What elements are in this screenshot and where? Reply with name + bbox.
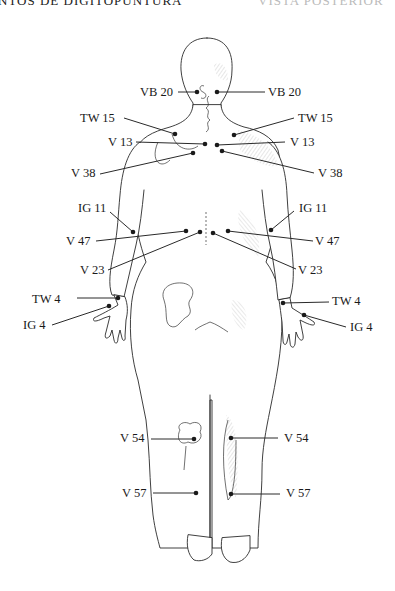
point-label-v13-right: V 13: [290, 135, 314, 149]
leader-line-ig11-left: [110, 212, 133, 232]
leader-line-tw15-right: [234, 118, 294, 135]
point-label-tw4-left: TW 4: [32, 292, 61, 306]
acupoint-ig4-left: [107, 304, 112, 309]
acupoint-v54-left: [192, 437, 197, 442]
acupoint-vb20-right: [215, 90, 220, 95]
leader-line-ig4-right: [304, 315, 346, 327]
point-label-tw4-right: TW 4: [332, 294, 361, 308]
acupoint-ig4-right: [302, 313, 307, 318]
acupoint-v47-left: [184, 229, 189, 234]
acupoint-tw4-right: [281, 301, 286, 306]
point-label-v47-right: V 47: [315, 234, 339, 248]
leader-line-ig11-right: [271, 211, 294, 230]
acupoint-v13-left: [203, 142, 208, 147]
acupoint-v57-right: [229, 492, 234, 497]
point-label-v38-right: V 38: [318, 166, 342, 180]
leader-line-v38-left: [100, 153, 193, 174]
acupoint-v54-right: [229, 436, 234, 441]
point-label-v57-left: V 57: [122, 486, 146, 500]
point-label-ig11-right: IG 11: [299, 201, 327, 215]
point-label-v13-left: V 13: [108, 135, 132, 149]
leader-line-v13-right: [217, 142, 285, 145]
acupoint-v47-right: [226, 229, 231, 234]
acupoint-ig11-left: [131, 230, 136, 235]
point-label-ig4-right: IG 4: [350, 320, 373, 334]
point-label-vb20-left: VB 20: [140, 85, 173, 99]
leader-line-v23-right: [213, 233, 296, 269]
point-label-v47-left: V 47: [66, 234, 90, 248]
leader-line-ig4-left: [52, 306, 109, 325]
leader-line-v38-right: [222, 151, 314, 173]
point-label-v57-right: V 57: [286, 486, 310, 500]
leader-line-tw4-right: [283, 302, 329, 303]
acupoint-v57-left: [194, 491, 199, 496]
point-label-v54-left: V 54: [120, 431, 144, 445]
acupoint-vb20-left: [195, 90, 200, 95]
point-label-tw15-left: TW 15: [80, 111, 115, 125]
acupoint-v23-right: [211, 231, 216, 236]
acupoint-tw15-left: [173, 132, 178, 137]
leader-line-v47-left: [96, 231, 186, 241]
leader-line-v13-left: [136, 142, 205, 144]
acupoint-v13-right: [215, 143, 220, 148]
point-label-v23-left: V 23: [80, 263, 104, 277]
acupoint-tw15-right: [232, 133, 237, 138]
point-label-tw15-right: TW 15: [298, 111, 333, 125]
point-label-v38-left: V 38: [71, 166, 95, 180]
acupoint-ig11-right: [269, 228, 274, 233]
point-label-ig11-left: IG 11: [78, 201, 106, 215]
point-label-ig4-left: IG 4: [23, 318, 46, 332]
acupoint-tw4-left: [116, 296, 121, 301]
leader-line-tw15-left: [124, 118, 175, 134]
acupoint-v38-left: [191, 151, 196, 156]
point-label-v54-right: V 54: [284, 431, 308, 445]
leader-line-v47-right: [228, 231, 313, 241]
acupoint-v38-right: [220, 149, 225, 154]
point-label-v23-right: V 23: [298, 263, 322, 277]
point-label-vb20-right: VB 20: [268, 85, 301, 99]
acupoint-v23-left: [198, 230, 203, 235]
